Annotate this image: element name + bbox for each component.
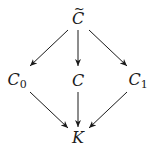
node-c-tilde-label: C xyxy=(72,11,84,27)
node-c0-label: C xyxy=(7,70,19,89)
node-k-label: K xyxy=(72,128,84,147)
arrow-c0-to-k xyxy=(30,92,68,128)
node-c: C xyxy=(72,73,84,89)
arrow-ctilde-to-c1 xyxy=(89,30,127,66)
node-c0-subscript: 0 xyxy=(20,78,27,91)
node-c1-label: C xyxy=(128,70,140,89)
arrow-c1-to-k xyxy=(89,92,127,128)
arrow-ctilde-to-c0 xyxy=(30,30,68,66)
commutative-diagram: C C0 C C1 K xyxy=(0,0,154,151)
node-c1: C1 xyxy=(128,72,147,90)
node-k: K xyxy=(72,130,84,146)
node-c-tilde: C xyxy=(72,11,84,27)
node-c0: C0 xyxy=(7,72,26,90)
node-c-label: C xyxy=(72,71,84,90)
node-c1-subscript: 1 xyxy=(141,78,148,91)
